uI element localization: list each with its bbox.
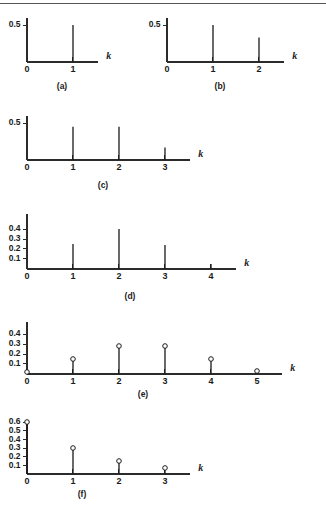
stems-group: [25, 420, 168, 474]
stem-plot-panel-f: 0.10.20.30.40.50.60123k: [0, 412, 216, 494]
x-axis-ticks: 012345: [24, 369, 259, 386]
stem-plot-panel-d: 0.10.20.30.401234k: [0, 204, 262, 289]
panel-caption-d: (d): [125, 291, 136, 301]
top-divider-rule: [0, 3, 326, 4]
x-tick-label: 2: [116, 271, 121, 281]
chart-svg-e: 0.10.20.30.4012345k: [0, 312, 308, 394]
y-tick-label: 0.3: [9, 338, 21, 348]
panel-caption-a: (a): [57, 81, 67, 91]
x-tick-label: 1: [70, 271, 75, 281]
x-axis-label: k: [198, 148, 203, 159]
chart-svg-a: 0.501k: [0, 8, 124, 82]
x-tick-label: 1: [70, 162, 75, 172]
chart-svg-f: 0.10.20.30.40.50.60123k: [0, 412, 216, 494]
stem-plot-panel-a: 0.501k: [0, 8, 124, 82]
y-tick-label: 0.1: [9, 253, 21, 263]
y-tick-label: 0.5: [149, 19, 161, 29]
x-tick-label: 3: [162, 476, 167, 486]
y-axis-ticks: 0.5: [149, 19, 168, 29]
y-axis-ticks: 0.10.20.30.4: [9, 223, 28, 263]
y-axis-ticks: 0.5: [9, 117, 28, 127]
stem-plot-panel-b: 0.5012k: [140, 8, 310, 82]
x-tick-label: 3: [162, 376, 167, 386]
x-tick-label: 2: [116, 376, 121, 386]
panel-caption-b: (b): [215, 81, 226, 91]
x-tick-label: 1: [210, 64, 215, 74]
y-tick-label: 0.6: [9, 416, 21, 426]
y-axis-ticks: 0.10.20.30.4: [9, 328, 28, 368]
stem-plot-panel-c: 0.50123k: [0, 106, 216, 180]
y-tick-label: 0.1: [9, 358, 21, 368]
y-tick-label: 0.3: [9, 442, 21, 452]
y-axis-ticks: 0.10.20.30.40.50.6: [9, 416, 28, 469]
x-tick-label: 1: [70, 376, 75, 386]
x-tick-label: 0: [164, 64, 169, 74]
x-axis-label: k: [244, 257, 249, 268]
data-point-marker: [117, 459, 122, 464]
data-point-marker: [71, 446, 76, 451]
x-tick-label: 0: [24, 162, 29, 172]
data-point-marker: [25, 420, 30, 425]
x-axis-label: k: [198, 462, 203, 473]
axes-group: [27, 214, 236, 269]
data-point-marker: [25, 370, 30, 375]
y-tick-label: 0.5: [9, 117, 21, 127]
stem-plot-panel-e: 0.10.20.30.4012345k: [0, 312, 308, 394]
x-tick-label: 2: [256, 64, 261, 74]
x-axis-ticks: 0123: [24, 469, 167, 486]
data-point-marker: [209, 357, 214, 362]
x-tick-label: 3: [162, 271, 167, 281]
y-tick-label: 0.5: [9, 19, 21, 29]
axes-group: [167, 18, 284, 62]
axes-group: [27, 322, 282, 374]
y-tick-label: 0.4: [9, 434, 21, 444]
axes-group: [27, 116, 190, 160]
y-tick-label: 0.2: [9, 451, 21, 461]
stems-group: [25, 344, 260, 375]
x-tick-label: 0: [24, 376, 29, 386]
x-axis-label: k: [290, 362, 295, 373]
x-axis-ticks: 0123: [24, 155, 167, 172]
chart-svg-d: 0.10.20.30.401234k: [0, 204, 262, 289]
stems-group: [73, 229, 211, 269]
x-axis-ticks: 01: [24, 57, 75, 74]
stems-group: [213, 25, 259, 62]
y-tick-label: 0.2: [9, 348, 21, 358]
x-tick-label: 3: [162, 162, 167, 172]
panel-caption-c: (c): [98, 180, 108, 190]
y-tick-label: 0.5: [9, 425, 21, 435]
panel-caption-e: (e): [138, 389, 148, 399]
data-point-marker: [163, 344, 168, 349]
data-point-marker: [117, 344, 122, 349]
x-tick-label: 4: [208, 376, 213, 386]
chart-svg-c: 0.50123k: [0, 106, 216, 180]
y-tick-label: 0.2: [9, 243, 21, 253]
data-point-marker: [71, 357, 76, 362]
stems-group: [73, 127, 165, 160]
x-axis-label: k: [292, 50, 297, 61]
panel-caption-f: (f): [78, 489, 87, 499]
axes-group: [27, 18, 98, 62]
y-axis-ticks: 0.5: [9, 19, 28, 29]
x-tick-label: 2: [116, 476, 121, 486]
x-tick-label: 4: [208, 271, 213, 281]
x-axis-label: k: [106, 50, 111, 61]
x-tick-label: 1: [70, 476, 75, 486]
data-point-marker: [255, 369, 260, 374]
y-tick-label: 0.4: [9, 223, 21, 233]
y-tick-label: 0.3: [9, 233, 21, 243]
x-tick-label: 0: [24, 476, 29, 486]
x-tick-label: 0: [24, 64, 29, 74]
y-tick-label: 0.4: [9, 328, 21, 338]
x-tick-label: 1: [70, 64, 75, 74]
data-point-marker: [163, 466, 168, 471]
x-tick-label: 5: [254, 376, 259, 386]
x-tick-label: 0: [24, 271, 29, 281]
chart-svg-b: 0.5012k: [140, 8, 310, 82]
x-tick-label: 2: [116, 162, 121, 172]
y-tick-label: 0.1: [9, 460, 21, 470]
